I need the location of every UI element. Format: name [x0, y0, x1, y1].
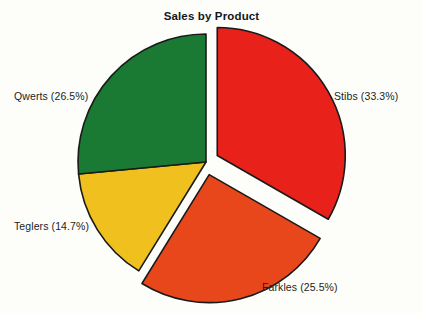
pie-label-stibs: Stibs (33.3%) [334, 90, 398, 102]
pie-slices-group [78, 27, 345, 302]
pie-chart-figure: Sales by Product Stibs (33.3%) Farkles (… [0, 0, 423, 313]
pie-label-teglers: Teglers (14.7%) [14, 220, 89, 232]
pie-chart-canvas [0, 0, 423, 313]
pie-slice-qwerts[interactable] [78, 34, 206, 174]
pie-label-qwerts: Qwerts (26.5%) [14, 90, 88, 102]
pie-label-farkles: Farkles (25.5%) [262, 281, 338, 293]
